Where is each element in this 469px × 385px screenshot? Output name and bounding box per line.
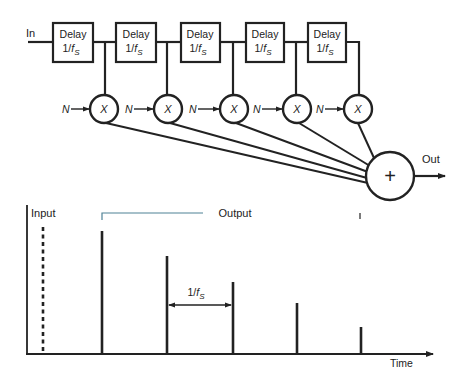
svg-text:+: + xyxy=(384,165,396,187)
delay-box-5: Delay 1/fS xyxy=(308,23,346,62)
svg-text:Out: Out xyxy=(422,153,440,165)
svg-text:Delay: Delay xyxy=(252,28,280,40)
svg-text:X: X xyxy=(229,103,238,115)
output-bracket: Output xyxy=(102,207,360,220)
svg-text:X: X xyxy=(292,103,301,115)
svg-text:Delay: Delay xyxy=(187,28,215,40)
svg-text:Delay: Delay xyxy=(60,28,88,40)
fir-filter-diagram: In Delay 1/fS Delay 1/fS Delay 1/fS Dela… xyxy=(0,0,469,385)
svg-text:N: N xyxy=(125,103,133,115)
multiplier-5: N X xyxy=(316,95,372,123)
summer-node: + xyxy=(366,152,414,200)
delay-box-4: Delay 1/fS xyxy=(246,23,284,62)
svg-text:X: X xyxy=(353,103,362,115)
svg-text:N: N xyxy=(253,103,261,115)
svg-text:Delay: Delay xyxy=(123,28,151,40)
delay-box-1: Delay 1/fS xyxy=(53,23,93,62)
sum-lines xyxy=(106,123,374,183)
interval-annotation: 1/fS xyxy=(169,286,231,305)
svg-text:X: X xyxy=(99,103,108,115)
svg-text:N: N xyxy=(62,103,70,115)
multiplier-4: N X xyxy=(253,95,311,123)
output-impulses xyxy=(102,231,361,354)
svg-text:N: N xyxy=(189,103,197,115)
timeline-axes: Time xyxy=(26,205,433,369)
multiplier-2: N X xyxy=(125,95,182,123)
svg-text:In: In xyxy=(26,27,35,39)
delay-box-3: Delay 1/fS xyxy=(181,23,220,62)
svg-text:Output: Output xyxy=(218,207,251,219)
svg-text:N: N xyxy=(316,103,324,115)
multiplier-1: N X xyxy=(62,95,118,123)
svg-text:Delay: Delay xyxy=(314,28,342,40)
delay-box-2: Delay 1/fS xyxy=(116,23,156,62)
svg-text:1/fS: 1/fS xyxy=(187,286,205,301)
multiplier-3: N X xyxy=(189,95,248,123)
output-arrow: Out xyxy=(414,153,445,176)
input-label: In xyxy=(26,27,35,39)
svg-text:Time: Time xyxy=(390,357,413,369)
svg-text:X: X xyxy=(163,103,172,115)
input-impulse: Input xyxy=(31,207,55,352)
svg-text:Input: Input xyxy=(31,207,55,219)
